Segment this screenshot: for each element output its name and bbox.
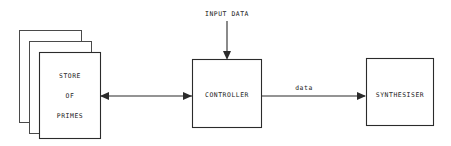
controller-label: CONTROLLER	[205, 91, 249, 99]
node-store-of-primes[interactable]: STORE OF PRIMES	[20, 31, 101, 139]
data-label: data	[295, 84, 313, 92]
edge-store-controller	[100, 92, 192, 100]
edge-input-data: INPUT DATA	[205, 10, 249, 60]
synthesiser-label: SYNTHESISER	[376, 91, 424, 99]
input-data-label: INPUT DATA	[205, 10, 249, 18]
node-synthesiser[interactable]: SYNTHESISER	[367, 59, 434, 126]
store-label-line-3: PRIMES	[57, 112, 83, 120]
input-data-arrowhead-down	[223, 51, 231, 60]
block-diagram: STORE OF PRIMES CONTROLLER SYNTHESISER I…	[0, 0, 451, 146]
store-label-line-1: STORE	[59, 72, 81, 80]
store-label-line-2: OF	[66, 92, 75, 100]
data-arrowhead-right	[357, 92, 366, 100]
store-controller-arrowhead-left	[100, 92, 109, 100]
diagram-canvas: STORE OF PRIMES CONTROLLER SYNTHESISER I…	[0, 0, 451, 146]
store-controller-arrowhead-right	[183, 92, 192, 100]
edge-controller-synthesiser: data	[262, 84, 366, 100]
node-controller[interactable]: CONTROLLER	[193, 60, 262, 128]
